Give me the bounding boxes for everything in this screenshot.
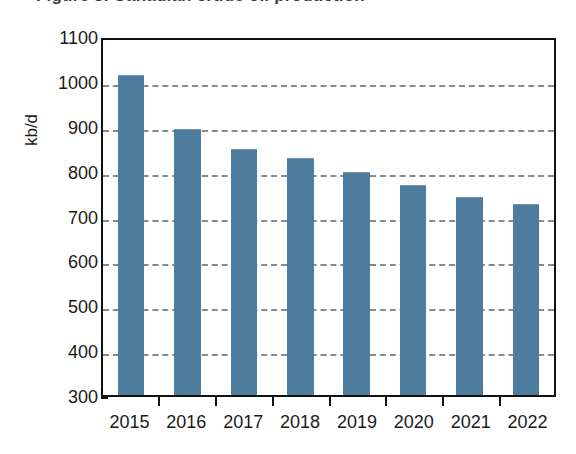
bar-slot: [103, 40, 159, 395]
bar-2016: [174, 129, 200, 395]
x-tick-mark: [158, 397, 160, 406]
x-axis-tick-labels: 20152016201720182019202020212022: [101, 409, 556, 439]
bar-slot: [159, 40, 215, 395]
bar-2017: [231, 149, 257, 395]
x-tick-mark: [499, 397, 501, 406]
x-tick-mark: [215, 397, 217, 406]
chart-title-clipped: Figure 3. Canadian crude oil production: [0, 0, 576, 9]
bar-slot: [272, 40, 328, 395]
x-tick-label: 2022: [499, 409, 556, 439]
x-tick-label: 2019: [329, 409, 386, 439]
bar-chart-figure: Figure 3. Canadian crude oil production …: [0, 0, 576, 454]
x-tick-label: 2021: [442, 409, 499, 439]
bar-slot: [441, 40, 497, 395]
bar-2021: [456, 197, 482, 395]
bar-slot: [216, 40, 272, 395]
bar-slot: [329, 40, 385, 395]
x-tick-label: 2018: [272, 409, 329, 439]
bar-slot: [385, 40, 441, 395]
bar-2018: [287, 158, 313, 395]
x-tick-label: 2020: [385, 409, 442, 439]
plot-area: [101, 38, 556, 397]
x-tick-mark: [385, 397, 387, 406]
bar-2015: [118, 75, 144, 395]
bar-2022: [513, 204, 539, 395]
x-tick-mark: [329, 397, 331, 406]
x-tick-mark: [442, 397, 444, 406]
chart-title: Figure 3. Canadian crude oil production: [36, 0, 556, 6]
bar-series: [103, 40, 554, 395]
x-tick-mark: [272, 397, 274, 406]
x-tick-label: 2015: [101, 409, 158, 439]
bar-2019: [343, 172, 369, 395]
x-tick-label: 2016: [158, 409, 215, 439]
bar-2020: [400, 185, 426, 395]
y-axis-tick-marks: [30, 38, 110, 397]
x-tick-label: 2017: [215, 409, 272, 439]
bar-slot: [498, 40, 554, 395]
x-axis-tick-marks: [101, 397, 556, 407]
